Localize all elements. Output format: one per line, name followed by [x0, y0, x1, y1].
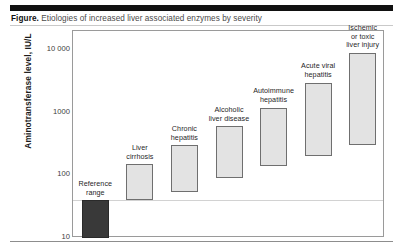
- y-tick-label: 10: [26, 232, 70, 241]
- bars-layer: Reference rangeLiver cirrhosisChronic he…: [73, 31, 383, 236]
- y-tick-label: 100: [26, 169, 70, 178]
- figure-bottom-rule: [10, 241, 393, 242]
- bar-group: Ischemic or toxic liver injury: [73, 31, 385, 236]
- bar-7: [349, 53, 376, 146]
- y-tick-label: 1000: [26, 107, 70, 116]
- y-axis-tick-labels: 10 000100010010: [20, 30, 70, 237]
- bar-label-7: Ischemic or toxic liver injury: [332, 24, 394, 50]
- header-rule: [10, 5, 393, 11]
- plot-area: Reference rangeLiver cirrhosisChronic he…: [72, 30, 384, 237]
- figure-container: Figure. Etiologies of increased liver as…: [0, 0, 403, 251]
- y-tick-label: 10 000: [26, 44, 70, 53]
- caption-text: Etiologies of increased liver associated…: [39, 14, 262, 23]
